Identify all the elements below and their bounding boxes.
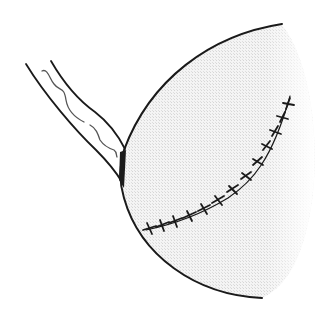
illustration-canvas: Line drawing of a sutured organ with att… (0, 0, 326, 323)
vessel-icon (42, 71, 117, 157)
surgical-illustration (0, 0, 326, 323)
organ (120, 24, 314, 298)
pedicle (26, 61, 126, 188)
pedicle-upper-edge (51, 61, 125, 149)
organ-fade (122, 25, 315, 298)
